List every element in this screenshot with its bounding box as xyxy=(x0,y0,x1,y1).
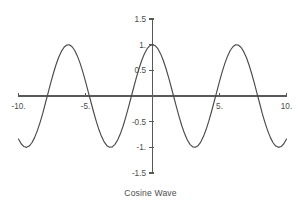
y-tick-label: 0.5 xyxy=(135,66,147,75)
y-tick-label: -1.5 xyxy=(132,169,147,178)
x-tick-label: 5. xyxy=(216,102,223,111)
axes-group xyxy=(19,19,287,173)
cosine-wave-figure: -10.-5.5.10. 1.51.0.5-0.5-1.-1.5 Cosine … xyxy=(0,0,301,205)
x-axis-tick-labels: -10.-5.5.10. xyxy=(11,102,292,111)
y-tick-label: 1.5 xyxy=(135,15,147,24)
y-tick-label: -0.5 xyxy=(132,118,147,127)
x-tick-label: -10. xyxy=(11,102,25,111)
x-tick-label: 10. xyxy=(281,102,292,111)
y-tick-label: -1. xyxy=(136,143,146,152)
y-tick-label: 1. xyxy=(139,41,146,50)
plot-area: -10.-5.5.10. 1.51.0.5-0.5-1.-1.5 xyxy=(0,0,301,182)
plot-svg: -10.-5.5.10. 1.51.0.5-0.5-1.-1.5 xyxy=(0,0,301,182)
figure-caption: Cosine Wave xyxy=(0,182,301,205)
x-tick-label: -5. xyxy=(81,102,91,111)
